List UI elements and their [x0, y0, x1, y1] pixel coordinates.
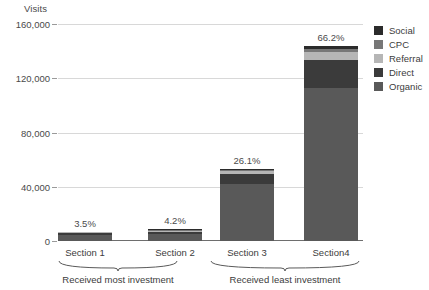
y-tick-label: 40,000	[2, 181, 50, 192]
bar-segment-direct[interactable]	[304, 60, 358, 88]
bar-section4[interactable]	[304, 24, 358, 241]
y-tick-mark	[52, 78, 57, 79]
bar-segment-referral[interactable]	[304, 52, 358, 60]
bar-section-1[interactable]	[58, 24, 112, 241]
legend-item-cpc[interactable]: CPC	[374, 37, 423, 51]
bar-section-3[interactable]	[220, 24, 274, 241]
bar-segment-organic[interactable]	[58, 235, 112, 241]
bar-section-2[interactable]	[148, 24, 202, 241]
y-tick-label: 0	[2, 236, 50, 247]
x-category-label: Section 2	[155, 247, 195, 258]
legend-swatch-icon	[374, 68, 383, 77]
bar-segment-organic[interactable]	[304, 88, 358, 241]
legend-swatch-icon	[374, 26, 383, 35]
legend-item-organic[interactable]: Organic	[374, 79, 423, 93]
bar-segment-direct[interactable]	[220, 174, 274, 184]
bar-data-label: 26.1%	[234, 155, 261, 166]
y-tick-mark	[52, 241, 57, 242]
legend-label: Direct	[389, 67, 414, 78]
legend-label: Social	[389, 25, 415, 36]
y-tick-label: 120,000	[2, 73, 50, 84]
x-category-label: Section 1	[65, 247, 105, 258]
bar-segment-organic[interactable]	[220, 184, 274, 241]
legend-label: Referral	[389, 53, 423, 64]
legend-label: CPC	[389, 39, 409, 50]
group-brace	[58, 261, 178, 272]
y-axis-title: Visits	[24, 3, 47, 14]
group-brace	[210, 261, 360, 272]
bar-data-label: 4.2%	[164, 215, 186, 226]
y-tick-mark	[52, 133, 57, 134]
bar-data-label: 66.2%	[318, 32, 345, 43]
legend-label: Organic	[389, 81, 422, 92]
chart-legend: SocialCPCReferralDirectOrganic	[374, 23, 423, 93]
group-label: Received most investment	[62, 274, 173, 285]
visits-stacked-bar-chart: Visits 040,00080,000120,000160,000 3.5%4…	[0, 0, 429, 290]
y-tick-label: 80,000	[2, 127, 50, 138]
legend-swatch-icon	[374, 82, 383, 91]
legend-item-social[interactable]: Social	[374, 23, 423, 37]
y-tick-label: 160,000	[2, 19, 50, 30]
legend-swatch-icon	[374, 54, 383, 63]
bar-segment-organic[interactable]	[148, 234, 202, 241]
legend-swatch-icon	[374, 40, 383, 49]
bar-data-label: 3.5%	[74, 218, 96, 229]
y-tick-mark	[52, 24, 57, 25]
x-category-label: Section4	[313, 247, 350, 258]
x-category-label: Section 3	[227, 247, 267, 258]
y-tick-mark	[52, 187, 57, 188]
group-label: Received least investment	[230, 274, 341, 285]
legend-item-referral[interactable]: Referral	[374, 51, 423, 65]
legend-item-direct[interactable]: Direct	[374, 65, 423, 79]
